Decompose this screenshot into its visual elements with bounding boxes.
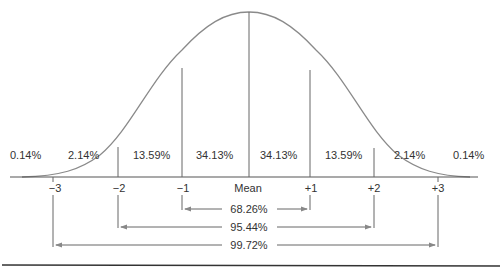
region-label: 0.14% — [453, 149, 484, 161]
range-labels: 68.26% 95.44% 99.72% — [230, 203, 268, 251]
region-label: 0.14% — [10, 149, 41, 161]
bottom-divider — [2, 265, 500, 266]
range-label-3sd: 99.72% — [230, 239, 268, 251]
tick-label: +1 — [305, 182, 318, 194]
region-label: 2.14% — [68, 149, 99, 161]
region-label: 13.59% — [325, 149, 363, 161]
range-label-1sd: 68.26% — [230, 203, 268, 215]
tick-label: −2 — [113, 182, 126, 194]
tick-label: +3 — [432, 182, 445, 194]
tick-label: −3 — [49, 182, 62, 194]
region-label: 2.14% — [394, 149, 425, 161]
region-label: 13.59% — [133, 149, 171, 161]
axis-tick-labels: −3 −2 −1 Mean +1 +2 +3 — [49, 182, 445, 194]
region-label: 34.13% — [196, 149, 234, 161]
normal-distribution-diagram: 0.14% 2.14% 13.59% 34.13% 34.13% 13.59% … — [0, 0, 501, 269]
tick-label: +2 — [368, 182, 381, 194]
tick-label-mean: Mean — [234, 182, 262, 194]
region-labels: 0.14% 2.14% 13.59% 34.13% 34.13% 13.59% … — [10, 149, 484, 161]
region-label: 34.13% — [260, 149, 298, 161]
range-label-2sd: 95.44% — [230, 221, 268, 233]
tick-label: −1 — [177, 182, 190, 194]
